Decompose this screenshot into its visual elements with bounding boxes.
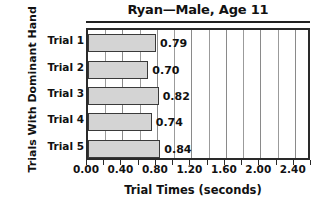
y-axis-tick-label: Trial 3 [36,87,84,99]
y-axis-tick-label: Trial 4 [36,113,84,125]
bar[interactable] [88,113,152,131]
bar-row: 0.70 [88,61,312,79]
bar-value-label: 0.84 [160,142,191,155]
plot-area: 0.790.700.820.740.84 [86,28,310,160]
bar-value-label: 0.79 [156,37,187,50]
title-divider [86,21,310,23]
bar-series: 0.790.700.820.740.84 [88,30,308,158]
bar-row: 0.84 [88,140,312,158]
bar[interactable] [88,140,160,158]
y-axis-tick-label: Trial 5 [36,140,84,152]
bar-value-label: 0.74 [152,116,183,129]
bar-row: 0.74 [88,113,312,131]
x-axis-title: Trial Times (seconds) [60,183,326,197]
y-axis-tick-label: Trial 2 [36,61,84,73]
bar[interactable] [88,61,148,79]
bar-row: 0.82 [88,87,312,105]
bar-value-label: 0.82 [159,90,190,103]
chart-title: Ryan—Male, Age 11 [86,2,310,17]
y-axis-tick-label: Trial 1 [36,34,84,46]
bar-chart: Ryan—Male, Age 11 Trials With Dominant H… [0,0,326,206]
bar[interactable] [88,87,159,105]
bar-value-label: 0.70 [148,63,179,76]
bar[interactable] [88,34,156,52]
x-axis-tick-label: 2.40 [271,163,315,175]
bar-row: 0.79 [88,34,312,52]
